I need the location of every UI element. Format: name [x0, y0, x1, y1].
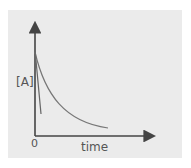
y-axis-label: [A]: [16, 75, 34, 89]
x-axis-label: time: [81, 140, 108, 154]
origin-label: 0: [31, 137, 38, 150]
tangent-line: [35, 50, 41, 114]
decay-curve: [35, 52, 108, 128]
